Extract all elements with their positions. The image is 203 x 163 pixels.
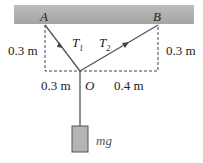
label-weight: mg (96, 134, 112, 147)
label-t1: T1 (72, 36, 83, 53)
mass-block (72, 126, 88, 152)
label-left-width: 0.3 m (41, 79, 71, 92)
label-a: A (40, 10, 48, 23)
label-right-height: 0.3 m (166, 44, 196, 57)
rope-ob (80, 25, 158, 71)
label-t2: T2 (99, 36, 110, 53)
label-right-width: 0.4 m (114, 79, 144, 92)
label-o: O (85, 79, 94, 92)
label-b: B (153, 10, 161, 23)
label-left-height: 0.3 m (8, 44, 38, 57)
